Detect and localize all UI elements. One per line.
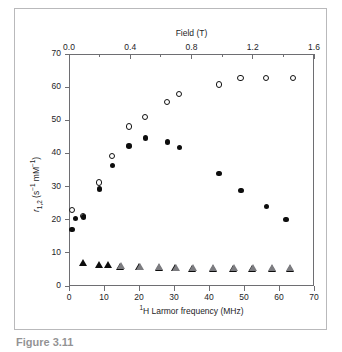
top-axis-tick-label: 0.0: [55, 42, 83, 52]
data-point-open-triangle: [230, 264, 238, 271]
x-axis-tick: [104, 286, 105, 291]
top-axis-minor-tick: [222, 54, 223, 57]
data-point-open-circle: [109, 153, 115, 159]
data-point-open-triangle: [136, 263, 144, 270]
y-axis-tick: [65, 186, 70, 187]
y-axis-tick: [65, 120, 70, 121]
x-axis-tick: [174, 286, 175, 291]
x-axis-tick-label: 70: [302, 292, 326, 302]
data-point-open-circle: [263, 75, 269, 81]
y-axis-tick-label: 10: [37, 247, 61, 257]
y-axis-tick: [65, 153, 70, 154]
top-axis-minor-tick: [283, 54, 284, 57]
data-point-filled-circle: [238, 188, 244, 194]
data-point-filled-triangle: [95, 261, 103, 268]
data-point-filled-triangle: [79, 259, 87, 266]
data-point-open-triangle: [268, 264, 276, 271]
x-axis-tick-label: 10: [92, 292, 116, 302]
y-axis-tick: [65, 286, 70, 287]
x-axis-title: 1H Larmor frequency (MHz): [69, 306, 314, 316]
data-point-open-triangle: [117, 262, 125, 269]
x-axis-tick-label: 0: [57, 292, 81, 302]
y-axis-tick-label: 0: [37, 280, 61, 290]
top-axis-tick: [314, 54, 315, 59]
x-axis-tick: [139, 286, 140, 291]
top-axis-minor-tick: [160, 54, 161, 57]
data-point-filled-circle: [143, 135, 149, 141]
data-point-open-circle: [237, 75, 243, 81]
y-axis-tick: [65, 252, 70, 253]
top-axis-tick: [252, 54, 253, 59]
top-axis-tick-label: 1.2: [239, 42, 267, 52]
figure-border: Field (T) 010203040506070010203040506070…: [14, 8, 327, 330]
top-axis-tick-label: 0.4: [116, 42, 144, 52]
data-point-filled-circle: [81, 214, 87, 220]
data-point-filled-circle: [73, 216, 79, 222]
x-axis-tick: [279, 286, 280, 291]
top-axis-tick-label: 0.8: [178, 42, 206, 52]
data-point-open-triangle: [286, 264, 294, 271]
x-axis-tick-label: 60: [267, 292, 291, 302]
data-point-open-circle: [69, 207, 75, 213]
figure-caption: Figure 3.11: [16, 336, 73, 348]
data-point-filled-circle: [110, 163, 116, 169]
data-point-open-circle: [176, 91, 182, 97]
y-axis-tick-label: 20: [37, 214, 61, 224]
data-point-open-circle: [142, 114, 148, 120]
top-axis-minor-tick: [99, 54, 100, 57]
y-axis-tick-label: 60: [37, 81, 61, 91]
data-point-filled-circle: [97, 186, 103, 192]
data-point-open-triangle: [172, 264, 180, 271]
data-point-filled-triangle: [104, 261, 112, 268]
data-point-filled-circle: [283, 217, 289, 223]
figure-page: Field (T) 010203040506070010203040506070…: [0, 0, 342, 352]
data-point-open-circle: [216, 81, 222, 87]
data-point-filled-circle: [69, 227, 75, 233]
data-point-open-triangle: [155, 263, 163, 270]
chart-overlay: 0102030405060700102030405060700.00.40.81…: [15, 9, 326, 329]
data-point-open-circle: [126, 123, 132, 129]
data-point-filled-circle: [177, 145, 183, 151]
y-axis-tick-label: 50: [37, 114, 61, 124]
data-point-open-circle: [164, 99, 170, 105]
x-axis-tick: [314, 286, 315, 291]
data-point-filled-circle: [216, 171, 222, 177]
x-axis-tick: [209, 286, 210, 291]
data-point-filled-circle: [126, 143, 132, 149]
data-point-open-triangle: [209, 264, 217, 271]
x-axis-tick: [69, 286, 70, 291]
y-axis-tick: [65, 87, 70, 88]
x-axis-tick-label: 50: [232, 292, 256, 302]
x-axis-tick-label: 20: [127, 292, 151, 302]
data-point-open-circle: [96, 179, 102, 185]
data-point-filled-circle: [264, 204, 270, 210]
data-point-open-triangle: [249, 264, 257, 271]
top-axis-tick: [69, 54, 70, 59]
data-point-filled-circle: [165, 139, 171, 145]
y-axis-tick: [65, 219, 70, 220]
data-point-open-triangle: [189, 264, 197, 271]
x-axis-tick-label: 40: [197, 292, 221, 302]
top-axis-tick: [130, 54, 131, 59]
top-axis-tick-label: 1.6: [300, 42, 328, 52]
x-axis-tick: [244, 286, 245, 291]
x-axis-tick-label: 30: [162, 292, 186, 302]
data-point-open-circle: [290, 75, 296, 81]
top-axis-tick: [191, 54, 192, 59]
y-axis-title: r1,2 (s−1 mM−1): [31, 157, 41, 212]
